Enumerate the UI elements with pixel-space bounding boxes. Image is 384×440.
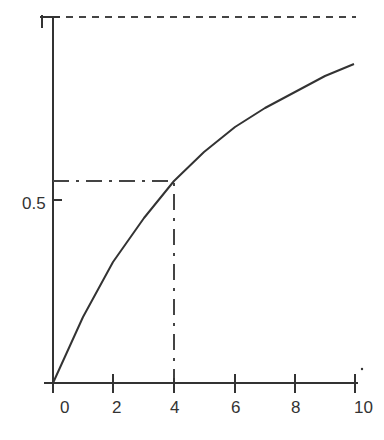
chart-svg: 0.5 0 2 4 6 8 10 — [0, 0, 384, 440]
x-tick-label-10: 10 — [354, 398, 373, 417]
x-tick-label-8: 8 — [291, 398, 300, 417]
data-curve — [53, 64, 354, 383]
axis-end-dot — [361, 368, 363, 370]
x-tick-label-2: 2 — [112, 398, 121, 417]
x-tick-label-0: 0 — [60, 398, 69, 417]
x-tick-label-4: 4 — [170, 398, 179, 417]
y-tick-label-half: 0.5 — [22, 194, 46, 213]
x-tick-label-6: 6 — [231, 398, 240, 417]
